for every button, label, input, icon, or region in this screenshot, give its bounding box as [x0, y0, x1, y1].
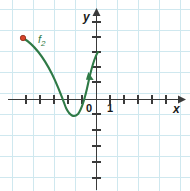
- graph-figure: y x 0 1 f2: [0, 0, 190, 191]
- curve-name-subscript: 2: [41, 39, 45, 48]
- tick-label-origin: 0: [86, 103, 92, 114]
- x-axis-label: x: [173, 103, 180, 115]
- curve-direction-arrow-icon: [85, 72, 94, 81]
- tick-label-one: 1: [107, 103, 113, 114]
- y-axis-label: y: [83, 11, 90, 23]
- coordinate-plane: [0, 0, 190, 191]
- curve-name-label: f2: [38, 34, 46, 48]
- curve-endpoint-dot: [20, 35, 25, 40]
